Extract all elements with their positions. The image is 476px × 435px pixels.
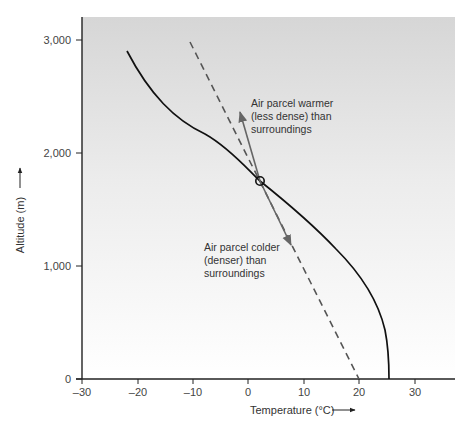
- svg-text:surroundings: surroundings: [251, 123, 312, 135]
- y-ticks: 0 1,000 2,000 3,000: [43, 34, 82, 385]
- x-tick-label: 20: [353, 386, 365, 398]
- svg-text:(denser) than: (denser) than: [204, 254, 267, 266]
- x-tick-label: 30: [409, 386, 421, 398]
- y-tick-label: 0: [65, 373, 71, 385]
- y-axis-title: Altitude (m): [14, 197, 26, 253]
- x-tick-label: 10: [298, 386, 310, 398]
- svg-text:Air parcel warmer: Air parcel warmer: [251, 97, 334, 109]
- chart: –30 –20 –10 0 10 20 30 0 1,000 2,000 3,0…: [0, 0, 476, 435]
- x-tick-label: 0: [245, 386, 251, 398]
- svg-text:surroundings: surroundings: [204, 267, 265, 279]
- y-tick-label: 2,000: [43, 147, 71, 159]
- x-tick-label: –30: [73, 386, 91, 398]
- x-tick-label: –20: [129, 386, 147, 398]
- x-axis-title: Temperature (°C): [250, 404, 334, 416]
- svg-text:(less dense) than: (less dense) than: [251, 110, 332, 122]
- y-tick-label: 3,000: [43, 34, 71, 46]
- x-tick-label: –10: [184, 386, 202, 398]
- svg-text:Air parcel colder: Air parcel colder: [204, 241, 280, 253]
- x-ticks: –30 –20 –10 0 10 20 30: [73, 379, 421, 398]
- y-tick-label: 1,000: [43, 260, 71, 272]
